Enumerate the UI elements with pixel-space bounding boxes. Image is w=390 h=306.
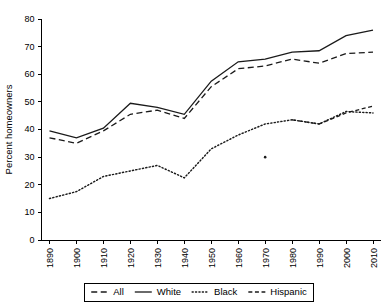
- series-point-hispanic-1970: [264, 156, 267, 159]
- y-tick-label: 50: [24, 97, 34, 107]
- x-tick-label: 2000: [342, 248, 352, 268]
- y-tick-label: 80: [24, 14, 34, 24]
- y-axis: 01020304050607080: [24, 14, 41, 245]
- x-tick-label: 2010: [369, 248, 379, 268]
- x-tick-label: 1900: [72, 248, 82, 268]
- x-tick-label: 1990: [315, 248, 325, 268]
- chart-legend: AllWhiteBlackHispanic: [84, 283, 314, 301]
- legend-label-hispanic: Hispanic: [270, 286, 307, 297]
- x-tick-label: 1980: [288, 248, 298, 268]
- x-axis: 1890190019101920193019401950196019701980…: [42, 240, 382, 268]
- legend-label-white: White: [157, 286, 181, 297]
- y-tick-label: 30: [24, 152, 34, 162]
- x-tick-label: 1950: [207, 248, 217, 268]
- y-tick-label: 70: [24, 42, 34, 52]
- legend-label-all: All: [113, 286, 124, 297]
- x-tick-label: 1960: [234, 248, 244, 268]
- x-tick-label: 1930: [153, 248, 163, 268]
- y-tick-label: 10: [24, 207, 34, 217]
- x-tick-label: 1910: [99, 248, 109, 268]
- x-tick-label: 1920: [126, 248, 136, 268]
- y-tick-label: 0: [29, 235, 34, 245]
- x-tick-label: 1970: [261, 248, 271, 268]
- y-tick-label: 60: [24, 69, 34, 79]
- series-lines: [50, 30, 374, 199]
- y-tick-label: 40: [24, 124, 34, 134]
- y-axis-title: Percent homeowners: [3, 84, 14, 174]
- y-tick-label: 20: [24, 180, 34, 190]
- legend-label-black: Black: [214, 286, 237, 297]
- line-chart-svg: 01020304050607080 1890190019101920193019…: [0, 0, 390, 306]
- chart-container: 01020304050607080 1890190019101920193019…: [0, 0, 390, 306]
- x-tick-label: 1940: [180, 248, 190, 268]
- series-line-black: [50, 112, 374, 199]
- x-tick-label: 1890: [45, 248, 55, 268]
